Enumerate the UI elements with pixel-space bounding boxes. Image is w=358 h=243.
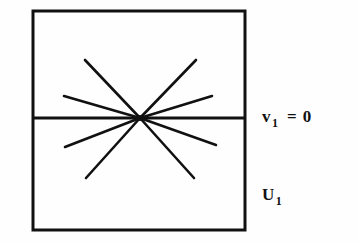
label-v1-symbol: v	[262, 107, 271, 126]
label-v1-subscript: 1	[271, 116, 278, 130]
label-u1-subscript: 1	[275, 194, 282, 208]
label-v1-value: 0	[303, 107, 312, 126]
label-u1-symbol: U	[262, 185, 275, 204]
center-node	[137, 115, 143, 121]
ray-lower-left-inner	[86, 118, 140, 178]
label-v1-operator: =	[278, 107, 303, 126]
ray-lower-left-outer	[65, 118, 140, 147]
label-u1: U1	[262, 186, 282, 207]
figure-page: v1=0 U1	[0, 0, 358, 243]
label-v1-equals-zero: v1=0	[262, 108, 311, 129]
